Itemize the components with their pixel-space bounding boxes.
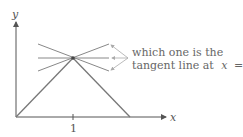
annotation-line-1: which one is the [132,46,223,59]
annotation-var: x [221,59,228,72]
pointer-bottom [111,58,128,70]
x-tick-label: 1 [70,122,77,135]
tangent-diagram: y x 1 which one is the tangent line at x… [0,0,243,137]
corner-point [71,56,75,60]
y-axis-label: y [11,8,19,21]
annotation-line-2: tangent line at x = 1? [132,59,243,72]
curve-right [73,58,130,117]
curve-left [16,58,73,117]
annotation-eq: = 1? [234,59,243,72]
x-axis-label: x [170,111,177,124]
pointer-top [111,45,128,58]
annotation-prefix: tangent line at [132,59,214,72]
